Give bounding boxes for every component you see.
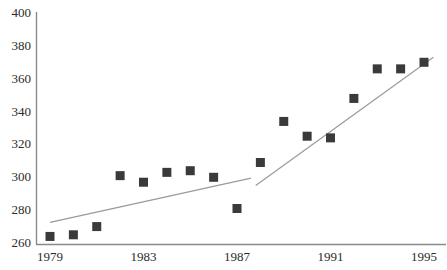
data-point-1995 xyxy=(420,58,429,67)
y-tick-label-340: 340 xyxy=(0,105,31,118)
y-tick-label-300: 300 xyxy=(0,170,31,183)
trend-line-segment-1 xyxy=(50,178,251,222)
y-tick-label-320: 320 xyxy=(0,137,31,150)
trend-lines xyxy=(50,57,433,222)
data-point-1993 xyxy=(373,64,382,73)
data-markers xyxy=(46,58,429,241)
y-tick-label-360: 360 xyxy=(0,72,31,85)
scatter-chart: 260280300320340360380400 197919831987199… xyxy=(0,0,447,270)
y-tick-label-260: 260 xyxy=(0,236,31,249)
data-point-1994 xyxy=(396,64,405,73)
data-point-1987 xyxy=(233,204,242,213)
y-tick-label-380: 380 xyxy=(0,39,31,52)
y-tick-label-400: 400 xyxy=(0,6,31,19)
data-point-1984 xyxy=(162,168,171,177)
y-tick-label-280: 280 xyxy=(0,203,31,216)
data-point-1982 xyxy=(116,171,125,180)
data-point-1988 xyxy=(256,158,265,167)
x-tick-label-1987: 1987 xyxy=(207,250,267,263)
x-tick-label-1979: 1979 xyxy=(20,250,80,263)
data-point-1990 xyxy=(303,132,312,141)
data-point-1985 xyxy=(186,166,195,175)
data-point-1979 xyxy=(46,232,55,241)
data-point-1980 xyxy=(69,230,78,239)
plot-area xyxy=(0,0,447,270)
data-point-1992 xyxy=(349,94,358,103)
x-tick-label-1983: 1983 xyxy=(114,250,174,263)
x-tick-label-1991: 1991 xyxy=(301,250,361,263)
x-tick-label-1995: 1995 xyxy=(394,250,447,263)
data-point-1991 xyxy=(326,133,335,142)
data-point-1981 xyxy=(92,222,101,231)
data-point-1986 xyxy=(209,173,218,182)
data-point-1983 xyxy=(139,178,148,187)
data-point-1989 xyxy=(279,117,288,126)
